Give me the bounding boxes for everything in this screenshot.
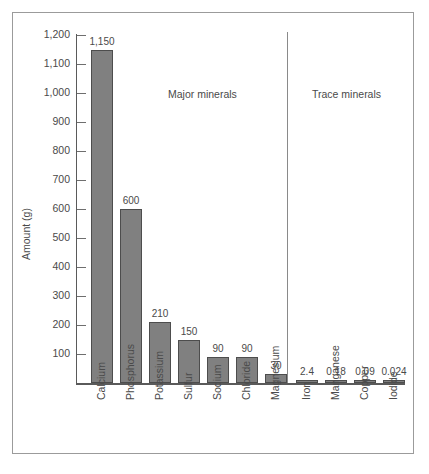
y-tick-mark bbox=[77, 238, 86, 239]
y-tick-label-text: 200 bbox=[52, 318, 70, 330]
y-tick-mark bbox=[77, 180, 86, 181]
trace-minerals-label: Trace minerals bbox=[312, 88, 381, 100]
y-tick-label-text: 1,100 bbox=[44, 57, 70, 69]
x-category-label: Calcium bbox=[95, 362, 107, 400]
x-category-label: Copper bbox=[358, 366, 370, 400]
mineral-amount-bar-chart: Amount (g) 1,2001,1001,00090080070060050… bbox=[0, 0, 429, 474]
y-tick-label-text: 800 bbox=[52, 144, 70, 156]
y-tick-label-text: 500 bbox=[52, 231, 70, 243]
x-category-label: Magnesium bbox=[269, 346, 281, 400]
y-tick-mark bbox=[77, 267, 86, 268]
bar-value-label: 600 bbox=[109, 195, 153, 206]
x-category-label: Phosphorus bbox=[124, 344, 136, 400]
y-tick-label-text: 100 bbox=[52, 347, 70, 359]
bar-value-label: 210 bbox=[138, 308, 182, 319]
y-tick-mark bbox=[77, 325, 86, 326]
x-category-label: Manganese bbox=[329, 345, 341, 400]
y-tick-label-text: 300 bbox=[52, 289, 70, 301]
y-tick-mark bbox=[77, 209, 86, 210]
y-tick-mark bbox=[77, 151, 86, 152]
x-category-label: Iron bbox=[300, 382, 312, 400]
bar-value-label: 90 bbox=[225, 343, 269, 354]
group-divider-line bbox=[287, 32, 288, 383]
y-tick-label-text: 600 bbox=[52, 202, 70, 214]
y-tick-label-text: 700 bbox=[52, 173, 70, 185]
y-tick-label-text: 900 bbox=[52, 115, 70, 127]
x-category-label: Sulfur bbox=[182, 373, 194, 400]
y-tick-mark bbox=[77, 354, 86, 355]
y-axis-title: Amount (g) bbox=[20, 208, 32, 260]
y-tick-mark bbox=[77, 296, 86, 297]
bar-value-label: 150 bbox=[167, 326, 211, 337]
y-tick-label-text: 1,000 bbox=[44, 86, 70, 98]
plot-area: Amount (g) 1,2001,1001,00090080070060050… bbox=[0, 0, 429, 474]
y-tick-label-text: 400 bbox=[52, 260, 70, 272]
x-category-label: Chloride bbox=[240, 361, 252, 400]
y-tick-label-text: 1,200 bbox=[44, 28, 70, 40]
x-category-label: Potassium bbox=[153, 351, 165, 400]
y-tick-mark bbox=[77, 64, 86, 65]
y-tick-mark bbox=[77, 93, 86, 94]
y-tick-mark bbox=[77, 122, 86, 123]
x-category-label: Sodium bbox=[211, 364, 223, 400]
bar bbox=[91, 50, 113, 384]
major-minerals-label: Major minerals bbox=[168, 88, 237, 100]
bar-value-label: 1,150 bbox=[80, 36, 124, 47]
x-category-label: Iodide bbox=[387, 371, 399, 400]
